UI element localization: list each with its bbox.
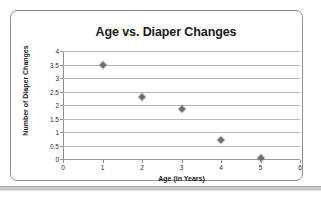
x-tick-mark-2 — [142, 160, 143, 163]
x-tick-mark-1 — [103, 160, 104, 163]
y-tick-label-0.5: 0.5 — [37, 142, 59, 149]
y-tick-mark-3.5 — [60, 65, 63, 66]
y-tick-label-2: 2 — [37, 102, 59, 109]
y-tick-label-1.5: 1.5 — [37, 115, 59, 122]
chart-frame: Age vs. Diaper Changes Number of Diaper … — [10, 10, 303, 181]
x-tick-mark-5 — [261, 160, 262, 163]
x-tick-mark-6 — [300, 160, 301, 163]
gridline-y-1.5 — [63, 119, 300, 120]
y-tick-mark-2.5 — [60, 92, 63, 93]
chart-title: Age vs. Diaper Changes — [41, 25, 291, 39]
x-tick-mark-0 — [63, 160, 64, 163]
data-point — [178, 106, 185, 113]
gridline-y-4 — [63, 51, 300, 52]
gridline-y-3 — [63, 78, 300, 79]
y-tick-mark-2 — [60, 105, 63, 106]
y-axis-tick-labels: 00.511.522.533.54 — [35, 51, 59, 159]
x-tick-label-6: 6 — [290, 164, 310, 171]
x-tick-label-5: 5 — [251, 164, 271, 171]
x-tick-label-1: 1 — [93, 164, 113, 171]
y-tick-label-0: 0 — [37, 156, 59, 163]
x-tick-label-3: 3 — [172, 164, 192, 171]
x-tick-label-0: 0 — [53, 164, 73, 171]
y-tick-label-4: 4 — [37, 48, 59, 55]
y-tick-mark-1 — [60, 132, 63, 133]
x-tick-label-4: 4 — [211, 164, 231, 171]
screenshot-root: Age vs. Diaper Changes Number of Diaper … — [0, 0, 321, 197]
x-tick-mark-3 — [182, 160, 183, 163]
y-tick-mark-4 — [60, 51, 63, 52]
y-tick-label-3: 3 — [37, 75, 59, 82]
y-tick-mark-1.5 — [60, 119, 63, 120]
y-tick-label-1: 1 — [37, 129, 59, 136]
page-divider-shadow — [0, 190, 321, 191]
x-tick-mark-4 — [221, 160, 222, 163]
data-point — [217, 137, 224, 144]
y-tick-mark-0.5 — [60, 146, 63, 147]
x-axis-title: Age (in Years) — [63, 175, 300, 182]
data-point — [99, 61, 106, 68]
gridline-y-2.5 — [63, 92, 300, 93]
x-tick-label-2: 2 — [132, 164, 152, 171]
y-tick-label-2.5: 2.5 — [37, 88, 59, 95]
y-tick-label-3.5: 3.5 — [37, 61, 59, 68]
y-tick-mark-3 — [60, 78, 63, 79]
y-axis-title: Number of Diaper Changes — [22, 35, 29, 147]
gridline-y-0.5 — [63, 146, 300, 147]
plot-area — [63, 51, 300, 159]
data-point — [138, 93, 145, 100]
gridline-y-1 — [63, 132, 300, 133]
